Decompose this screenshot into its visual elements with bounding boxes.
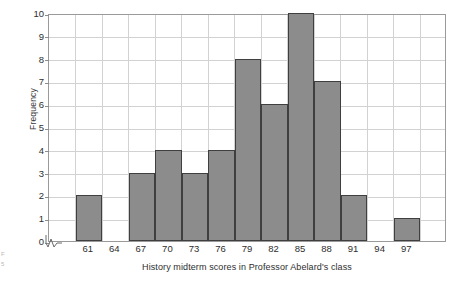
x-axis-tick-label: 61 (75, 244, 102, 254)
y-axis-tick-label: 9 (26, 32, 44, 42)
x-axis-tick-label: 82 (260, 244, 287, 254)
y-axis-tick-label: 8 (26, 55, 44, 65)
y-axis-tick-mark (45, 129, 49, 130)
gridline-vertical (393, 15, 394, 241)
x-axis-tick-label: 76 (207, 244, 234, 254)
x-axis-tick-label: 85 (287, 244, 314, 254)
y-axis-tick-mark (45, 151, 49, 152)
histogram-figure: F 5 Frequency 012345678910 6164677073767… (0, 0, 475, 286)
y-axis-tick-label: 0 (26, 237, 44, 247)
x-axis-tick-label: 67 (128, 244, 155, 254)
x-axis-tick-label: 91 (340, 244, 367, 254)
y-axis-tick-mark (45, 197, 49, 198)
y-axis-tick-label: 4 (26, 146, 44, 156)
x-axis-title: History midterm scores in Professor Abel… (48, 262, 446, 272)
x-axis-tick-label: 94 (366, 244, 393, 254)
axis-break-zigzag-icon (44, 234, 62, 250)
x-axis-tick-label: 79 (234, 244, 261, 254)
x-axis-tick-label: 64 (101, 244, 128, 254)
gridline-horizontal (49, 37, 445, 38)
y-axis-tick-mark (45, 83, 49, 84)
y-axis-tick-mark (45, 220, 49, 221)
y-axis-tick-label: 5 (26, 123, 44, 133)
page-edge-mark-1: F (1, 251, 5, 257)
histogram-bar (182, 173, 209, 241)
histogram-bar (261, 104, 288, 241)
y-axis-tick-label: 6 (26, 100, 44, 110)
y-axis-tick-label: 2 (26, 191, 44, 201)
gridline-vertical (420, 15, 421, 241)
histogram-bar (394, 218, 421, 241)
y-axis-tick-mark (45, 106, 49, 107)
y-axis-tick-mark (45, 37, 49, 38)
y-axis-tick-label: 7 (26, 77, 44, 87)
histogram-bar (155, 150, 182, 241)
y-axis-tick-labels: 012345678910 (24, 0, 44, 286)
x-axis-tick-label: 97 (393, 244, 420, 254)
y-axis-tick-label: 10 (26, 9, 44, 19)
y-axis-tick-mark (45, 15, 49, 16)
histogram-bar (129, 173, 156, 241)
histogram-bar (235, 59, 262, 241)
y-axis-tick-label: 3 (26, 169, 44, 179)
histogram-bar (208, 150, 235, 241)
histogram-bar (314, 81, 341, 241)
x-axis-tick-label: 88 (313, 244, 340, 254)
x-axis-tick-label: 73 (181, 244, 208, 254)
histogram-bar (341, 195, 368, 241)
histogram-bar (288, 13, 315, 241)
y-axis-tick-mark (45, 60, 49, 61)
histogram-bar (76, 195, 103, 241)
x-axis-tick-label: 70 (154, 244, 181, 254)
y-axis-tick-label: 1 (26, 214, 44, 224)
plot-area (48, 14, 446, 242)
page-edge-mark-2: 5 (1, 261, 4, 267)
x-axis-tick-labels: 61646770737679828588919497 (48, 244, 446, 258)
y-axis-tick-mark (45, 174, 49, 175)
